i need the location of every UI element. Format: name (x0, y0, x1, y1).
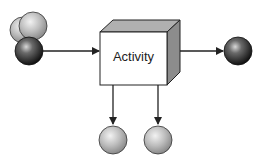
activity-label: Activity (113, 49, 155, 64)
output-ball-dark (224, 37, 252, 65)
activity-box-top (100, 20, 180, 32)
input-ball-dark (15, 37, 43, 65)
activity-box-side (167, 20, 180, 85)
activity-diagram: Activity (0, 0, 260, 163)
output-ball-light-2 (144, 126, 172, 154)
input-ball-light-2 (19, 12, 47, 40)
activity-box: Activity (100, 20, 180, 85)
output-ball-light-1 (99, 126, 127, 154)
